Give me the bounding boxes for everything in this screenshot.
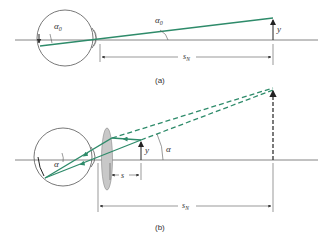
label-alpha0-eye: α0 (54, 21, 62, 32)
eyeball (37, 10, 93, 66)
virtual-ray-top (112, 88, 273, 138)
virtual-ray-bottom (141, 90, 273, 140)
part-b: α α y s sN (b) (15, 88, 318, 232)
label-y: y (276, 24, 281, 34)
angle-arc-ray (157, 134, 163, 160)
ray-bottom (45, 140, 141, 178)
angle-arc-eye (62, 153, 63, 162)
label-y: y (144, 145, 149, 155)
label-alpha-ray: α (166, 144, 171, 154)
caption-b: (b) (155, 223, 165, 232)
label-sN: sN (183, 52, 190, 62)
cornea (92, 28, 96, 48)
label-alpha-eye: α (54, 159, 59, 169)
magnifier-lens (102, 128, 113, 190)
part-a: α0 α0 y sN (a) (15, 10, 318, 85)
label-sN: sN (182, 201, 189, 211)
optics-diagram: α0 α0 y sN (a) α α y s (0, 0, 325, 242)
label-s: s (121, 171, 124, 180)
caption-a: (a) (155, 76, 165, 85)
label-alpha0-ray: α0 (155, 15, 163, 26)
angle-arc-eye (50, 34, 52, 43)
